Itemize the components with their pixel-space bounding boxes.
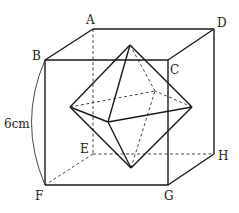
label-A: A — [85, 13, 95, 27]
edge-length-label: 6cm — [4, 117, 30, 131]
label-E: E — [80, 142, 89, 156]
label-F: F — [35, 189, 43, 203]
label-B: B — [32, 49, 41, 63]
label-D: D — [217, 16, 227, 30]
label-C: C — [170, 63, 179, 77]
edge-length-arc — [32, 60, 46, 185]
cube-octahedron-diagram: A D B C E H F G 6cm — [0, 0, 239, 213]
label-H: H — [218, 149, 228, 163]
label-G: G — [164, 189, 174, 203]
